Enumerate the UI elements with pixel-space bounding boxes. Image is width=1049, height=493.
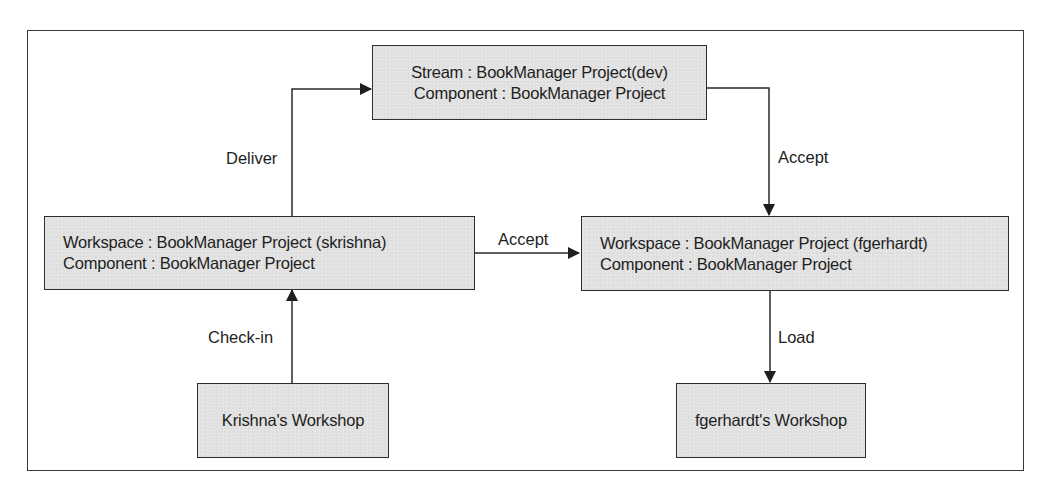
edge-label-accept-workspace: Accept xyxy=(498,229,548,249)
stream-node: Stream : BookManager Project(dev) Compon… xyxy=(372,45,707,120)
edge-label-checkin: Check-in xyxy=(208,327,273,347)
fgerhardt-workshop-label: fgerhardt's Workshop xyxy=(695,410,847,431)
stream-node-line1: Stream : BookManager Project(dev) xyxy=(411,62,668,83)
edge-label-load: Load xyxy=(778,327,815,347)
workspace-skrishna-line2: Component : BookManager Project xyxy=(63,253,315,274)
edge-label-accept-stream: Accept xyxy=(778,147,828,167)
workspace-skrishna-line1: Workspace : BookManager Project (skrishn… xyxy=(63,232,386,253)
fgerhardt-workshop-node: fgerhardt's Workshop xyxy=(676,383,866,458)
workspace-fgerhardt-node: Workspace : BookManager Project (fgerhar… xyxy=(581,216,1009,291)
workspace-fgerhardt-line1: Workspace : BookManager Project (fgerhar… xyxy=(600,233,928,254)
workspace-skrishna-node: Workspace : BookManager Project (skrishn… xyxy=(44,216,475,290)
krishna-workshop-node: Krishna's Workshop xyxy=(197,383,389,458)
workspace-fgerhardt-line2: Component : BookManager Project xyxy=(600,254,852,275)
edge-label-deliver: Deliver xyxy=(226,148,277,168)
stream-node-line2: Component : BookManager Project xyxy=(414,83,666,104)
krishna-workshop-label: Krishna's Workshop xyxy=(222,410,364,431)
